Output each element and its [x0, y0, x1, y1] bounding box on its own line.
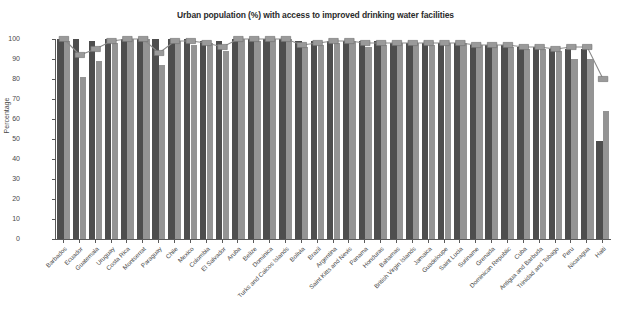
x-tick-mark: [269, 240, 270, 243]
x-tick-mark: [142, 240, 143, 243]
line-marker: [249, 36, 259, 41]
line-marker: [170, 38, 180, 43]
x-tick-mark: [237, 240, 238, 243]
line-marker: [138, 36, 148, 41]
x-tick-mark: [222, 240, 223, 243]
line-marker: [424, 40, 434, 45]
x-tick-mark: [95, 240, 96, 243]
line-marker: [59, 36, 69, 41]
x-tick-mark: [602, 240, 603, 243]
line-marker: [154, 50, 164, 55]
x-tick-mark: [523, 240, 524, 243]
y-tick-label: 0: [0, 235, 20, 242]
line-marker: [582, 44, 592, 49]
line-marker: [313, 40, 323, 45]
x-tick-mark: [333, 240, 334, 243]
line-marker: [456, 40, 466, 45]
line-marker: [440, 40, 450, 45]
x-tick-mark: [158, 240, 159, 243]
x-tick-mark: [348, 240, 349, 243]
line-marker: [551, 46, 561, 51]
line-marker: [360, 40, 370, 45]
line-marker: [376, 40, 386, 45]
y-tick-label: 60: [0, 115, 20, 122]
line-series-overlay: [56, 39, 611, 239]
line-marker: [329, 38, 339, 43]
x-tick-mark: [364, 240, 365, 243]
line-marker: [202, 40, 212, 45]
x-tick-mark: [301, 240, 302, 243]
x-tick-mark: [412, 240, 413, 243]
line-marker: [265, 36, 275, 41]
line-marker: [91, 46, 101, 51]
x-tick-mark: [380, 240, 381, 243]
y-tick-label: 20: [0, 195, 20, 202]
x-tick-mark: [459, 240, 460, 243]
y-tick-label: 100: [0, 35, 20, 42]
x-tick-mark: [253, 240, 254, 243]
x-tick-mark: [444, 240, 445, 243]
y-tick-label: 10: [0, 215, 20, 222]
x-tick-mark: [586, 240, 587, 243]
y-tick-label: 40: [0, 155, 20, 162]
line-marker: [598, 76, 608, 81]
chart-container: Urban population (%) with access to impr…: [0, 0, 631, 328]
x-tick-mark: [396, 240, 397, 243]
x-tick-mark: [570, 240, 571, 243]
chart-title: Urban population (%) with access to impr…: [0, 10, 631, 20]
x-tick-mark: [507, 240, 508, 243]
x-tick-mark: [475, 240, 476, 243]
line-marker: [123, 36, 133, 41]
line-marker: [471, 42, 481, 47]
line-marker: [234, 36, 244, 41]
line-marker: [281, 36, 291, 41]
x-tick-mark: [79, 240, 80, 243]
x-tick-mark: [539, 240, 540, 243]
y-tick-label: 50: [0, 135, 20, 142]
line-marker: [408, 40, 418, 45]
x-tick-mark: [111, 240, 112, 243]
x-tick-mark: [317, 240, 318, 243]
line-marker: [487, 42, 497, 47]
line-marker: [297, 42, 307, 47]
x-tick-mark: [206, 240, 207, 243]
line-marker: [186, 38, 196, 43]
plot-area: [55, 39, 611, 240]
x-tick-mark: [428, 240, 429, 243]
line-marker: [107, 38, 117, 43]
line-marker: [218, 44, 228, 49]
x-tick-mark: [63, 240, 64, 243]
line-marker: [503, 42, 513, 47]
line-marker: [75, 52, 85, 57]
x-tick-mark: [190, 240, 191, 243]
line-marker: [345, 38, 355, 43]
x-tick-mark: [174, 240, 175, 243]
x-tick-mark: [555, 240, 556, 243]
line-marker: [567, 44, 577, 49]
y-tick-label: 80: [0, 75, 20, 82]
x-tick-mark: [285, 240, 286, 243]
y-tick-label: 70: [0, 95, 20, 102]
y-tick-label: 30: [0, 175, 20, 182]
line-marker: [519, 44, 529, 49]
line-marker: [392, 40, 402, 45]
x-tick-mark: [126, 240, 127, 243]
line-marker: [535, 44, 545, 49]
y-tick-label: 90: [0, 55, 20, 62]
x-tick-mark: [491, 240, 492, 243]
